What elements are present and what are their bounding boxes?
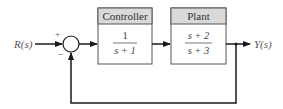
- summing-junction: [63, 36, 79, 52]
- controller-denominator: s + 1: [114, 45, 136, 56]
- controller-numerator: 1: [122, 30, 127, 41]
- controller-title: Controller: [102, 10, 148, 22]
- plant-numerator: s + 2: [188, 30, 210, 41]
- controller-block: Controller 1 s + 1: [98, 8, 152, 64]
- block-diagram: R(s) + − Controller 1 s + 1 Plant s + 2 …: [0, 0, 283, 109]
- output-label: Y(s): [254, 38, 272, 51]
- plant-title: Plant: [187, 10, 210, 22]
- minus-sign: −: [58, 49, 64, 60]
- plant-denominator: s + 3: [188, 45, 210, 56]
- plant-block: Plant s + 2 s + 3: [171, 8, 226, 64]
- plus-sign: +: [55, 29, 60, 39]
- input-label: R(s): [13, 38, 33, 51]
